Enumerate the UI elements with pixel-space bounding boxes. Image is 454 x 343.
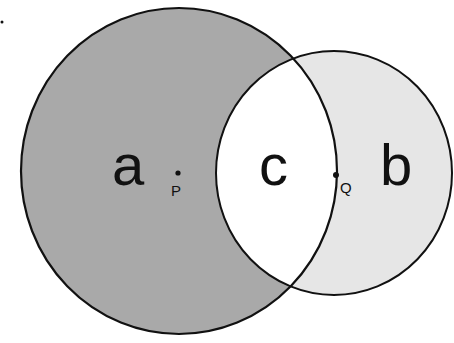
- point-p: [175, 170, 180, 175]
- label-b: b: [380, 132, 412, 197]
- label-p: P: [171, 182, 181, 199]
- label-a: a: [112, 132, 145, 197]
- label-q: Q: [340, 179, 352, 196]
- point-q: [333, 172, 339, 178]
- venn-diagram: a c b P Q: [0, 0, 454, 343]
- stray-dot: [1, 21, 4, 24]
- label-c: c: [259, 132, 288, 197]
